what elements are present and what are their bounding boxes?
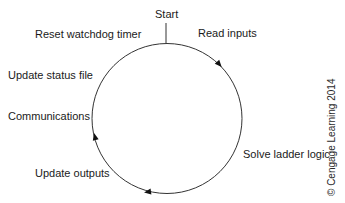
cycle-circle [92,44,242,194]
step-reset-watchdog-timer: Reset watchdog timer [35,28,141,40]
step-update-outputs: Update outputs [35,167,110,179]
step-update-status-file: Update status file [8,69,93,81]
step-communications: Communications [8,110,90,122]
step-read-inputs: Read inputs [198,27,257,39]
copyright-notice: © Cengage Learning 2014 [326,79,337,196]
step-solve-ladder-logic: Solve ladder logic [243,148,330,160]
arrow-icon-communications [91,132,99,140]
start-label: Start [155,8,178,20]
